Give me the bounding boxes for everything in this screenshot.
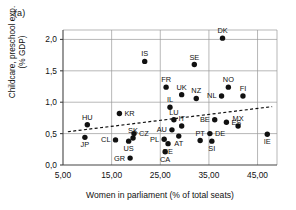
point-label-nz: NZ (191, 86, 201, 95)
y-tick-label: 0,5 (45, 129, 57, 139)
data-point-pl (161, 137, 166, 142)
point-label-ee: EE (163, 147, 173, 156)
y-tick-label: 0,0 (45, 160, 57, 170)
y-axis-ticks: 0,00,51,01,52,0 (45, 34, 63, 170)
data-point-dk (220, 35, 225, 40)
data-point-kr (117, 111, 122, 116)
point-label-uk: UK (177, 83, 187, 92)
data-point-us (126, 138, 131, 143)
data-point-nl (219, 93, 224, 98)
point-label-gr: GR (114, 154, 125, 163)
point-label-si: SI (208, 144, 215, 153)
data-point-ee (165, 141, 170, 146)
data-point-uk (179, 92, 184, 97)
point-label-pl: PL (150, 135, 159, 144)
point-label-no: NO (223, 75, 234, 84)
point-label-de: DE (215, 129, 225, 138)
data-point-gr (127, 155, 132, 160)
data-point-ie (265, 132, 270, 137)
data-point-is (142, 59, 147, 64)
point-label-sk: SK (128, 126, 138, 135)
point-label-fr: FR (161, 75, 171, 84)
data-point-pt (197, 138, 202, 143)
point-label-it: IT (178, 114, 185, 123)
y-tick-label: 1,0 (45, 97, 57, 107)
data-point-es (224, 120, 229, 125)
y-tick-label: 2,0 (45, 34, 57, 44)
x-axis-ticks: 5,0015,0025,0035,0045,00 (55, 170, 269, 180)
x-tick-label: 45,00 (247, 170, 268, 180)
data-point-si (209, 138, 214, 143)
data-point-be (212, 117, 217, 122)
data-point-se (192, 62, 197, 67)
data-point-lu (171, 117, 176, 122)
point-label-kr: KR (124, 109, 134, 118)
point-label-ie: IE (264, 137, 271, 146)
point-label-hu: HU (82, 113, 93, 122)
data-point-cl (113, 137, 118, 142)
data-points: JPHUCLKRGRUSCZSKISPLCAEEFRILAULUATITUKSE… (81, 26, 271, 164)
data-point-fi (240, 93, 245, 98)
data-point-it (179, 123, 184, 128)
point-label-nl: NL (207, 91, 216, 100)
data-point-mx (235, 123, 240, 128)
point-label-at: AT (174, 139, 183, 148)
y-tick-label: 1,5 (45, 66, 57, 76)
point-label-lu: LU (169, 108, 178, 117)
x-tick-label: 25,00 (150, 170, 171, 180)
data-point-nz (194, 96, 199, 101)
point-label-mx: MX (233, 114, 244, 123)
data-point-hu (85, 122, 90, 127)
data-point-no (226, 84, 231, 89)
figure-panel: (a) Childcare, preschool exp. (% GDP) Wo… (0, 0, 296, 210)
point-label-is: IS (141, 49, 148, 58)
point-label-cl: CL (101, 135, 110, 144)
data-point-au (169, 127, 174, 132)
point-label-fi: FI (240, 84, 247, 93)
point-label-us: US (124, 144, 134, 153)
x-tick-label: 35,00 (198, 170, 219, 180)
data-point-fr (163, 84, 168, 89)
data-point-sk (130, 135, 135, 140)
point-label-jp: JP (81, 140, 90, 149)
point-label-cz: CZ (139, 129, 149, 138)
point-label-il: IL (167, 95, 173, 104)
point-label-pt: PT (195, 129, 205, 138)
data-point-de (207, 131, 212, 136)
data-point-at (176, 133, 181, 138)
point-label-be: BE (200, 115, 210, 124)
data-point-jp (82, 135, 87, 140)
x-tick-label: 5,00 (55, 170, 72, 180)
scatter-plot: 5,0015,0025,0035,0045,00 0,00,51,01,52,0… (0, 0, 296, 210)
point-label-se: SE (189, 53, 199, 62)
point-label-au: AU (157, 125, 167, 134)
point-label-dk: DK (217, 26, 227, 35)
point-label-ca: CA (160, 155, 170, 164)
x-tick-label: 15,00 (101, 170, 122, 180)
